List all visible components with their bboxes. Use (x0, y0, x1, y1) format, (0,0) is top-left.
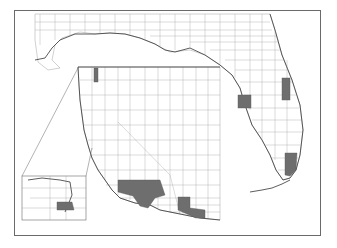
western-us-map (78, 67, 220, 220)
inset-highlighted-county (57, 202, 74, 210)
highlighted-county-king (94, 68, 98, 82)
highlighted-county-west-central (238, 95, 251, 108)
highlighted-county-miami-dade (285, 153, 297, 176)
highlighted-county-brevard (282, 78, 290, 100)
county-map (0, 0, 337, 248)
